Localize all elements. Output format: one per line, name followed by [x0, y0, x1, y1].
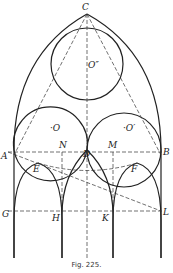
outer-arch-left	[14, 14, 87, 258]
label-f: F	[131, 165, 137, 174]
label-m: M	[108, 141, 117, 150]
label-l: L	[163, 208, 169, 217]
outer-arch-right	[87, 14, 161, 258]
label-e: E	[33, 165, 40, 174]
label-d: D	[83, 150, 90, 159]
label-a: A	[1, 152, 8, 161]
label-c: C	[82, 3, 89, 12]
label-o2: O″	[88, 61, 99, 70]
lancet-right	[113, 163, 161, 258]
line-a-l	[8, 152, 161, 211]
label-n: N	[59, 141, 67, 150]
label-g: G	[2, 210, 9, 219]
lancet-center	[62, 150, 113, 258]
label-k: K	[102, 214, 109, 223]
lancet-left	[14, 163, 62, 258]
label-o: ·O	[50, 124, 60, 133]
gothic-window-construction	[0, 0, 173, 273]
label-o1: ·O′	[123, 124, 135, 133]
figure-caption: Fig. 225.	[0, 261, 173, 269]
label-b: B	[163, 148, 170, 157]
label-h: H	[52, 214, 60, 223]
